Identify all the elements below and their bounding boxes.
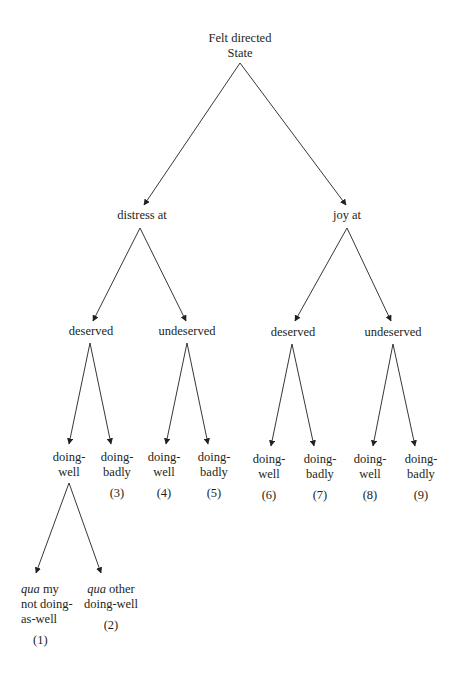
leaf-number: (6) (253, 488, 286, 503)
node-right-deserved: deserved (271, 325, 315, 340)
edge-l-undeserved-to-well (166, 343, 187, 444)
node-leaf-doing-well-1: doing- well (53, 450, 86, 480)
leaf-line1-rest: other (106, 582, 135, 596)
node-leaf-1-qua-my: qua my not doing- as-well (1) (21, 582, 73, 648)
qua-italic: qua (87, 582, 106, 596)
leaf-line1: doing- (304, 452, 337, 467)
tree-edges (0, 0, 456, 680)
leaf-line1: doing- (198, 450, 231, 465)
node-leaf-7: doing- badly (7) (304, 452, 337, 503)
node-left-undeserved: undeserved (159, 324, 216, 339)
leaf-line2: not doing- (21, 597, 73, 612)
edge-l-deserved-to-well (69, 343, 90, 444)
edge-r-undeserved-to-badly (393, 344, 415, 446)
edge-l-undeserved-to-badly (187, 343, 208, 444)
distress-at-label: distress at (117, 208, 167, 223)
leaf-line2: well (253, 467, 286, 482)
leaf-line1: qua my (21, 582, 73, 597)
edge-root-to-distress (144, 63, 240, 205)
leaf-line2: badly (101, 465, 134, 480)
leaf-line2: well (53, 465, 86, 480)
node-joy-at: joy at (333, 208, 361, 223)
leaf-line1: doing- (101, 450, 134, 465)
leaf-number: (2) (84, 618, 138, 633)
node-right-undeserved: undeserved (365, 325, 422, 340)
leaf-number: (8) (354, 488, 387, 503)
right-undeserved-label: undeserved (365, 325, 422, 340)
leaf-number: (3) (101, 486, 134, 501)
node-leaf-6: doing- well (6) (253, 452, 286, 503)
node-distress-at: distress at (117, 208, 167, 223)
leaf-line2: doing-well (84, 597, 138, 612)
edge-distress-to-deserved (93, 228, 140, 321)
edge-r-deserved-to-badly (292, 344, 314, 446)
leaf-line2: badly (198, 465, 231, 480)
leaf-line2: badly (304, 467, 337, 482)
node-leaf-4: doing- well (4) (148, 450, 181, 501)
node-leaf-8: doing- well (8) (354, 452, 387, 503)
edge-r-deserved-to-well (271, 344, 292, 446)
edge-joy-to-deserved (295, 228, 347, 321)
node-leaf-3: doing- badly (3) (101, 450, 134, 501)
edge-l-deserved-to-badly (90, 343, 111, 444)
leaf-line1-rest: my (40, 582, 59, 596)
left-undeserved-label: undeserved (159, 324, 216, 339)
node-root: Felt directed State (209, 31, 272, 61)
leaf-line1: doing- (148, 450, 181, 465)
node-leaf-9: doing- badly (9) (405, 452, 438, 503)
leaf-number: (1) (33, 633, 73, 648)
edge-r-undeserved-to-well (373, 344, 393, 446)
left-deserved-label: deserved (69, 324, 113, 339)
leaf-line3: as-well (21, 612, 73, 627)
edge-root-to-joy (240, 63, 346, 205)
leaf-number: (5) (198, 486, 231, 501)
node-left-deserved: deserved (69, 324, 113, 339)
leaf-line1: doing- (53, 450, 86, 465)
edge-doingwell-to-qua-my (36, 483, 69, 573)
leaf-number: (4) (148, 486, 181, 501)
emotion-taxonomy-tree: Felt directed State distress at joy at d… (0, 0, 456, 680)
leaf-line2: well (148, 465, 181, 480)
leaf-line1: doing- (405, 452, 438, 467)
node-leaf-2-qua-other: qua other doing-well (2) (84, 582, 138, 633)
right-deserved-label: deserved (271, 325, 315, 340)
leaf-line2: badly (405, 467, 438, 482)
leaf-line1: doing- (253, 452, 286, 467)
leaf-number: (7) (304, 488, 337, 503)
edge-distress-to-undeserved (140, 228, 186, 321)
root-label-line1: Felt directed (209, 31, 272, 46)
edge-joy-to-undeserved (347, 228, 391, 321)
leaf-number: (9) (405, 488, 438, 503)
root-label-line2: State (209, 46, 272, 61)
leaf-line2: well (354, 467, 387, 482)
node-leaf-5: doing- badly (5) (198, 450, 231, 501)
qua-italic: qua (21, 582, 40, 596)
leaf-line1: qua other (84, 582, 138, 597)
edge-doingwell-to-qua-other (69, 483, 101, 573)
joy-at-label: joy at (333, 208, 361, 223)
leaf-line1: doing- (354, 452, 387, 467)
